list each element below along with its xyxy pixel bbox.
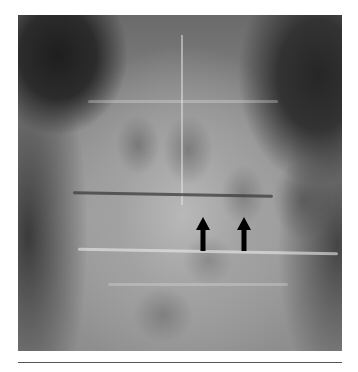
upper-endplate	[88, 100, 278, 103]
spinous-process-line	[181, 35, 183, 205]
vertebral-body-shadows	[18, 15, 342, 351]
arrow-up-icon	[237, 217, 251, 251]
xray-image	[18, 15, 342, 351]
horizontal-rule	[18, 362, 342, 363]
arrow-up-icon	[196, 217, 210, 251]
sacral-line	[108, 283, 288, 286]
